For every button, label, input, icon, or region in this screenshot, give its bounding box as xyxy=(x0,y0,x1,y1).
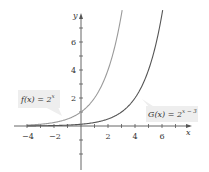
x-tick-label: 4 xyxy=(133,132,138,141)
g-label-exp: x − 3 xyxy=(182,108,197,114)
x-tick-label: 6 xyxy=(160,132,165,141)
f-label-main: f(x) = 2 xyxy=(20,95,52,104)
y-tick-label: 2 xyxy=(71,94,76,103)
y-tick-label: 6 xyxy=(71,38,76,47)
y-axis-label: y xyxy=(72,11,78,20)
g-label-main: G(x) = 2 xyxy=(148,110,182,119)
x-tick-label: 2 xyxy=(106,132,111,141)
y-axis-arrow-icon xyxy=(79,13,83,19)
g-curve xyxy=(27,10,163,126)
x-axis-label: x xyxy=(186,128,191,137)
x-tick-label: −2 xyxy=(49,132,61,141)
x-tick-label: −4 xyxy=(22,132,34,141)
chart: −4 −2 2 4 6 2 4 6 x y f(x) = 2x G(x) = 2… xyxy=(0,0,209,172)
f-label: f(x) = 2x xyxy=(20,93,56,104)
y-tick-label: 4 xyxy=(71,66,76,75)
